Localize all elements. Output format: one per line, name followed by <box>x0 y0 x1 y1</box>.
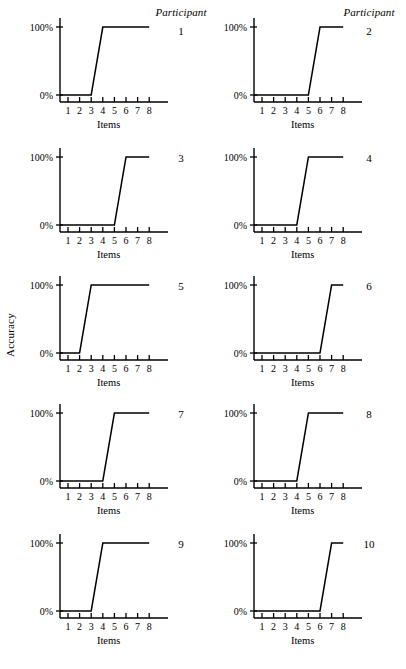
x-tick-label: 5 <box>306 621 311 632</box>
x-tick-label: 2 <box>77 491 82 502</box>
x-tick-label: 7 <box>329 105 334 116</box>
step-plot: 100%0%12345678Items <box>212 516 406 647</box>
y-tick-label: 100% <box>30 22 53 33</box>
participant-number: 3 <box>144 152 218 164</box>
participant-panel: 100%0%12345678Items5 <box>18 258 212 389</box>
y-tick-label: 0% <box>234 606 247 617</box>
x-tick-label: 1 <box>66 363 71 374</box>
y-tick-label: 100% <box>30 280 53 291</box>
x-tick-label: 1 <box>260 235 265 246</box>
x-tick-label: 3 <box>283 105 288 116</box>
x-tick-label: 7 <box>329 363 334 374</box>
step-plot: 100%0%12345678Items <box>212 258 406 389</box>
y-tick-label: 100% <box>224 408 247 419</box>
x-tick-label: 3 <box>89 491 94 502</box>
participant-number: 10 <box>332 538 406 550</box>
x-tick-label: 4 <box>100 105 105 116</box>
x-tick-label: 5 <box>306 363 311 374</box>
y-tick-label: 100% <box>30 538 53 549</box>
participant-panel: 100%0%12345678Items10 <box>212 516 406 647</box>
participant-accuracy-figure: Accuracy 100%0%12345678ItemsParticipant1… <box>0 0 406 669</box>
participant-header: Participant <box>144 6 218 18</box>
x-tick-label: 8 <box>147 363 152 374</box>
y-tick-label: 0% <box>234 348 247 359</box>
x-tick-label: 2 <box>77 363 82 374</box>
x-tick-label: 1 <box>260 363 265 374</box>
participant-number: 2 <box>332 25 406 37</box>
x-tick-label: 2 <box>271 105 276 116</box>
x-tick-label: 8 <box>341 363 346 374</box>
step-plot: 100%0%12345678Items <box>18 0 212 131</box>
x-tick-label: 5 <box>112 235 117 246</box>
x-tick-label: 6 <box>318 491 323 502</box>
x-tick-label: 2 <box>271 235 276 246</box>
x-tick-label: 1 <box>66 105 71 116</box>
x-tick-label: 5 <box>112 621 117 632</box>
x-tick-label: 4 <box>294 235 299 246</box>
x-tick-label: 6 <box>318 621 323 632</box>
y-axis-title-text: Accuracy <box>4 313 16 357</box>
participant-number: 9 <box>144 538 218 550</box>
participant-panel: 100%0%12345678Items6 <box>212 258 406 389</box>
participant-number: 6 <box>332 280 406 292</box>
x-tick-label: 6 <box>318 235 323 246</box>
x-tick-label: 7 <box>135 363 140 374</box>
x-tick-label: 5 <box>112 363 117 374</box>
x-axis-title: Items <box>291 119 314 130</box>
x-tick-label: 7 <box>329 235 334 246</box>
accuracy-step-line <box>60 157 149 225</box>
y-tick-label: 100% <box>30 408 53 419</box>
x-tick-label: 2 <box>77 621 82 632</box>
x-tick-label: 5 <box>112 105 117 116</box>
accuracy-step-line <box>60 413 149 481</box>
x-tick-label: 3 <box>283 491 288 502</box>
x-tick-label: 5 <box>306 105 311 116</box>
step-plot: 100%0%12345678Items <box>18 130 212 261</box>
x-tick-label: 6 <box>124 621 129 632</box>
x-tick-label: 4 <box>294 491 299 502</box>
accuracy-step-line <box>60 27 149 95</box>
participant-number: 7 <box>144 408 218 420</box>
step-plot: 100%0%12345678Items <box>212 0 406 131</box>
x-tick-label: 3 <box>283 621 288 632</box>
x-tick-label: 2 <box>271 363 276 374</box>
accuracy-step-line <box>60 543 149 611</box>
x-tick-label: 6 <box>124 105 129 116</box>
y-tick-label: 100% <box>224 280 247 291</box>
participant-panel: 100%0%12345678Items3 <box>18 130 212 261</box>
y-tick-label: 0% <box>234 476 247 487</box>
accuracy-step-line <box>254 27 343 95</box>
x-tick-label: 2 <box>77 105 82 116</box>
participant-panel: 100%0%12345678ItemsParticipant1 <box>18 0 212 131</box>
x-tick-label: 8 <box>341 235 346 246</box>
y-tick-label: 0% <box>234 90 247 101</box>
x-tick-label: 8 <box>147 621 152 632</box>
x-tick-label: 6 <box>124 363 129 374</box>
y-tick-label: 100% <box>30 152 53 163</box>
participant-number: 5 <box>144 280 218 292</box>
x-axis-title: Items <box>291 505 314 516</box>
x-tick-label: 4 <box>294 621 299 632</box>
x-tick-label: 4 <box>294 105 299 116</box>
y-tick-label: 100% <box>224 22 247 33</box>
x-tick-label: 6 <box>124 235 129 246</box>
y-tick-label: 100% <box>224 152 247 163</box>
y-tick-label: 0% <box>234 220 247 231</box>
x-axis-title: Items <box>97 505 120 516</box>
x-tick-label: 5 <box>112 491 117 502</box>
x-tick-label: 2 <box>271 621 276 632</box>
x-tick-label: 1 <box>66 621 71 632</box>
x-tick-label: 8 <box>341 621 346 632</box>
participant-number: 8 <box>332 408 406 420</box>
y-tick-label: 0% <box>40 606 53 617</box>
accuracy-step-line <box>254 543 343 611</box>
y-tick-label: 0% <box>40 220 53 231</box>
x-tick-label: 8 <box>147 105 152 116</box>
accuracy-step-line <box>254 285 343 353</box>
x-tick-label: 5 <box>306 235 311 246</box>
accuracy-step-line <box>254 413 343 481</box>
y-tick-label: 100% <box>224 538 247 549</box>
participant-header: Participant <box>332 6 406 18</box>
step-plot: 100%0%12345678Items <box>18 386 212 517</box>
x-tick-label: 4 <box>100 621 105 632</box>
